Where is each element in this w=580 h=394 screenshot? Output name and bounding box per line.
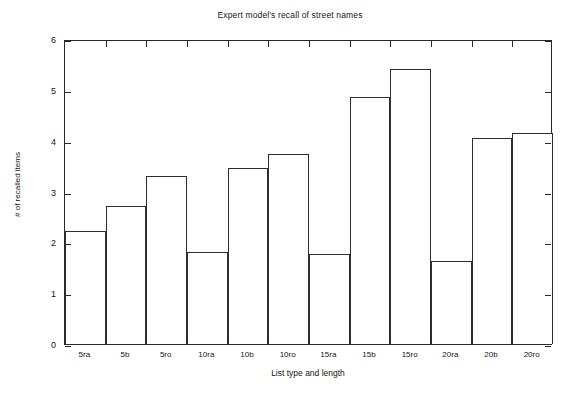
y-axis-tick-label: 0 xyxy=(16,340,56,350)
x-axis-tick xyxy=(512,338,513,344)
x-axis-tick-top xyxy=(309,41,310,47)
bar xyxy=(431,261,472,344)
y-axis-tick xyxy=(65,92,71,93)
plot-area xyxy=(64,40,552,345)
y-axis-tick-right xyxy=(545,194,551,195)
x-axis-tick-top xyxy=(512,41,513,47)
x-axis-tick xyxy=(390,338,391,344)
y-axis-tick xyxy=(65,41,71,42)
x-axis-tick xyxy=(472,338,473,344)
y-axis-tick xyxy=(65,143,71,144)
y-axis-tick-label: 2 xyxy=(16,238,56,248)
y-axis-tick-right xyxy=(545,143,551,144)
y-axis-tick-right xyxy=(545,346,551,347)
bar xyxy=(187,252,228,344)
bar xyxy=(268,154,309,344)
y-axis-title: # of recalled items xyxy=(13,130,22,240)
x-axis-tick xyxy=(268,338,269,344)
y-axis-tick-right xyxy=(545,244,551,245)
y-axis-tick-label: 1 xyxy=(16,289,56,299)
x-axis-tick xyxy=(228,338,229,344)
bar xyxy=(106,206,147,344)
bar xyxy=(472,138,513,344)
x-axis-tick-top xyxy=(472,41,473,47)
x-axis-tick xyxy=(309,338,310,344)
x-axis-tick xyxy=(146,338,147,344)
x-axis-tick-top xyxy=(146,41,147,47)
y-axis-tick-label: 6 xyxy=(16,35,56,45)
y-axis-tick-right xyxy=(545,92,551,93)
chart-figure: Expert model's recall of street names 01… xyxy=(0,0,580,394)
x-axis-tick-top xyxy=(390,41,391,47)
x-axis-tick-top xyxy=(268,41,269,47)
y-axis-tick-label: 4 xyxy=(16,137,56,147)
x-axis-tick-top xyxy=(187,41,188,47)
y-axis-tick-label: 5 xyxy=(16,86,56,96)
y-axis-tick xyxy=(65,244,71,245)
y-axis-tick-right xyxy=(545,295,551,296)
bar xyxy=(146,176,187,344)
x-axis-tick-top xyxy=(431,41,432,47)
y-axis-tick xyxy=(65,346,71,347)
x-axis-tick xyxy=(350,338,351,344)
bar xyxy=(228,168,269,344)
x-axis-tick-top xyxy=(228,41,229,47)
x-axis-tick xyxy=(187,338,188,344)
y-axis-tick-right xyxy=(545,41,551,42)
bar xyxy=(309,254,350,344)
bar xyxy=(350,97,391,344)
x-axis-tick-top xyxy=(106,41,107,47)
bar xyxy=(512,133,553,344)
x-axis-tick-top xyxy=(350,41,351,47)
bar xyxy=(65,231,106,344)
y-axis-tick xyxy=(65,295,71,296)
y-axis-tick-label: 3 xyxy=(16,188,56,198)
x-axis-title: List type and length xyxy=(64,368,552,378)
x-axis-tick-labels: 5ra5b5ro10ra10b10ro15ra15b15ro20ra20b20r… xyxy=(64,350,552,366)
y-axis-tick xyxy=(65,194,71,195)
x-axis-tick-label: 20ro xyxy=(502,350,562,359)
x-axis-tick xyxy=(431,338,432,344)
x-axis-tick xyxy=(106,338,107,344)
chart-title: Expert model's recall of street names xyxy=(0,10,580,20)
bar xyxy=(390,69,431,344)
plot-inner xyxy=(65,41,551,344)
